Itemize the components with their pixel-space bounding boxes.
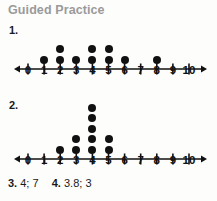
dot-plot-1-tick-labels: 012345678910: [0, 64, 217, 78]
tick-label: 1: [41, 64, 47, 76]
data-dot: [88, 45, 96, 53]
tick-label: 7: [137, 154, 143, 166]
data-dot: [88, 104, 96, 112]
problem-1-number: 1.: [9, 24, 18, 36]
tick-label: 9: [170, 154, 176, 166]
tick-label: 8: [154, 154, 160, 166]
tick-label: 5: [105, 154, 111, 166]
tick-label: 5: [105, 64, 111, 76]
dot-plot-2-tick-labels: 012345678910: [0, 154, 217, 168]
tick-label: 3: [73, 154, 79, 166]
tick-label: 8: [154, 64, 160, 76]
data-dot: [105, 45, 113, 53]
tick-label: 7: [137, 64, 143, 76]
answer-key-line: 3. 4; 7 4. 3.8; 3: [8, 177, 92, 189]
tick-label: 3: [73, 64, 79, 76]
tick-label: 0: [25, 64, 31, 76]
tick-label: 6: [121, 64, 127, 76]
tick-label: 6: [121, 154, 127, 166]
data-dot: [72, 135, 80, 143]
tick-label: 10: [183, 154, 196, 166]
problem-2-number: 2.: [9, 99, 18, 111]
tick-label: 10: [183, 64, 196, 76]
tick-label: 9: [170, 64, 176, 76]
tick-label: 4: [89, 154, 95, 166]
worksheet-page: Guided Practice 1. 012345678910 2. 01234…: [0, 0, 217, 201]
data-dot: [56, 45, 64, 53]
page-title: Guided Practice: [8, 3, 105, 17]
data-dot: [88, 135, 96, 143]
tick-label: 2: [57, 154, 63, 166]
data-dot: [105, 135, 113, 143]
data-dot: [88, 114, 96, 122]
answer-4-label: 4.: [52, 177, 61, 189]
answer-4-value: 3.8; 3: [64, 177, 92, 189]
answer-3-value: 4; 7: [20, 177, 38, 189]
data-dot: [88, 125, 96, 133]
tick-label: 2: [57, 64, 63, 76]
tick-label: 4: [89, 64, 95, 76]
tick-label: 0: [25, 154, 31, 166]
answer-3-label: 3.: [8, 177, 17, 189]
tick-label: 1: [41, 154, 47, 166]
